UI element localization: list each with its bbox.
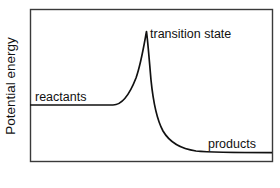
transition-state-label: transition state xyxy=(150,27,231,41)
reactants-annotation: reactants xyxy=(35,90,86,104)
y-axis-label-group: Potential energy xyxy=(3,37,18,135)
transition-state-annotation: transition state xyxy=(150,27,231,41)
potential-energy-diagram: Potential energy reactants transition st… xyxy=(0,0,280,188)
products-annotation: products xyxy=(208,137,256,151)
products-label: products xyxy=(208,137,256,151)
reactants-label: reactants xyxy=(35,90,86,104)
y-axis-label: Potential energy xyxy=(3,37,18,135)
chart-svg: Potential energy reactants transition st… xyxy=(0,0,280,188)
